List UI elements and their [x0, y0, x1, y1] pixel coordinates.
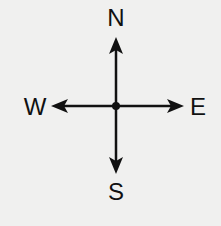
west-label: W	[20, 95, 50, 119]
center-dot-icon	[112, 102, 120, 110]
east-label: E	[186, 95, 210, 119]
south-label: S	[104, 180, 128, 204]
compass-rose: N S W E	[0, 0, 221, 226]
north-label: N	[104, 6, 128, 30]
